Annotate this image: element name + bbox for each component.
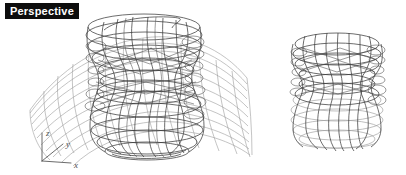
- left-composite-object[interactable]: [30, 14, 252, 166]
- wireframe-scene: z y x: [0, 0, 406, 175]
- perspective-viewport[interactable]: Perspective: [0, 0, 406, 175]
- vase-wireframe: [85, 14, 206, 160]
- right-vase-object[interactable]: [290, 33, 386, 151]
- vase-lower-rings: [291, 89, 383, 148]
- world-axis-indicator: z y x: [42, 128, 78, 170]
- axis-line-y: [42, 144, 63, 161]
- axis-label-x: x: [73, 160, 78, 170]
- axis-label-y: y: [65, 139, 70, 149]
- axis-label-z: z: [45, 128, 50, 138]
- viewport-label[interactable]: Perspective: [5, 3, 79, 19]
- axis-line-x: [42, 161, 71, 163]
- surface-mesh: [30, 37, 252, 166]
- vase-upper-wireframe: [290, 33, 386, 151]
